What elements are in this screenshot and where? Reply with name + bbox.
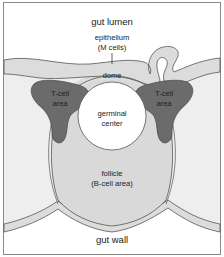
label-center: center <box>101 119 123 128</box>
label-epithelium: epithelium <box>95 33 130 42</box>
label-gut-lumen: gut lumen <box>91 16 133 27</box>
diagram-frame: gut lumen epithelium (M cells) dome T-ce… <box>0 0 224 257</box>
label-tcell-right-area: area <box>156 99 172 108</box>
label-tcell-left: T-cell <box>51 89 69 98</box>
label-follicle: follicle <box>101 169 122 178</box>
label-dome: dome <box>103 71 122 80</box>
label-tcell-left-area: area <box>52 99 68 108</box>
peyers-patch-diagram: gut lumen epithelium (M cells) dome T-ce… <box>0 0 224 257</box>
label-gut-wall: gut wall <box>96 234 128 245</box>
label-b-cell-area: (B-cell area) <box>91 179 133 188</box>
label-tcell-right: T-cell <box>155 89 173 98</box>
label-m-cells: (M cells) <box>98 43 127 52</box>
label-germinal: germinal <box>97 109 126 118</box>
